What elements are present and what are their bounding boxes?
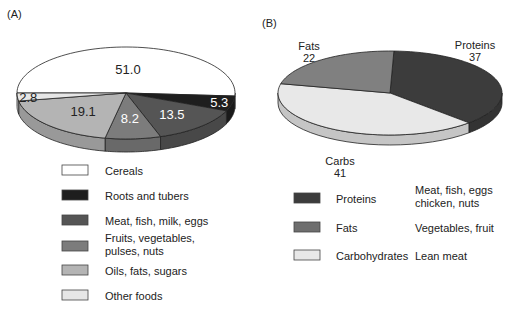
pie-a-value-label: 8.2 (121, 111, 139, 126)
panel-label-b: (B) (262, 17, 277, 29)
pie-b-slice-label: 22 (303, 52, 315, 64)
legend-b-swatch (294, 222, 320, 232)
legend-b-description: chicken, nuts (415, 197, 480, 209)
legend-a: CerealsRoots and tubersMeat, fish, milk,… (62, 165, 209, 302)
legend-a-swatch (62, 265, 88, 275)
legend-a-label: pulses, nuts (105, 245, 164, 257)
legend-b-label: Fats (336, 222, 358, 234)
pie-b-slice-label: Carbs (325, 155, 355, 167)
pie-b-slice-label: 41 (334, 167, 346, 179)
pie-b-slice-label: Fats (298, 40, 320, 52)
legend-b: ProteinsMeat, fish, eggschicken, nutsFat… (294, 184, 494, 262)
legend-b-label: Carbohydrates (336, 250, 409, 262)
legend-a-swatch (62, 241, 88, 251)
legend-b-label: Proteins (336, 193, 377, 205)
legend-a-label: Cereals (105, 165, 143, 177)
legend-a-swatch (62, 290, 88, 300)
legend-a-label: Roots and tubers (105, 190, 189, 202)
pie-chart-b: Proteins37Carbs41Fats22 (278, 39, 502, 179)
legend-a-swatch (62, 165, 88, 175)
pie-b-slice-label: 37 (469, 51, 481, 63)
pie-b-slice-label: Proteins (455, 39, 496, 51)
pie-a-value-label: 2.8 (19, 90, 37, 105)
legend-a-label: Meat, fish, milk, eggs (105, 215, 209, 227)
panel-label-a: (A) (7, 8, 22, 20)
pie-a-value-label: 13.5 (159, 107, 184, 122)
legend-a-swatch (62, 190, 88, 200)
legend-b-swatch (294, 250, 320, 260)
legend-b-swatch (294, 193, 320, 203)
legend-a-label: Other foods (105, 290, 163, 302)
pie-chart-a: 51.05.313.58.219.12.8 (17, 47, 235, 152)
legend-b-description: Meat, fish, eggs (415, 184, 493, 196)
pie-a-value-label: 51.0 (115, 62, 140, 77)
legend-a-label: Oils, fats, sugars (105, 265, 187, 277)
legend-a-swatch (62, 215, 88, 225)
pie-a-value-label: 5.3 (210, 95, 228, 110)
pie-a-value-label: 19.1 (71, 104, 96, 119)
legend-a-label: Fruits, vegetables, (105, 232, 195, 244)
legend-b-description: Lean meat (415, 250, 467, 262)
legend-b-description: Vegetables, fruit (415, 222, 494, 234)
figure: (A) (B) 51.05.313.58.219.12.8 Proteins37… (0, 0, 510, 317)
